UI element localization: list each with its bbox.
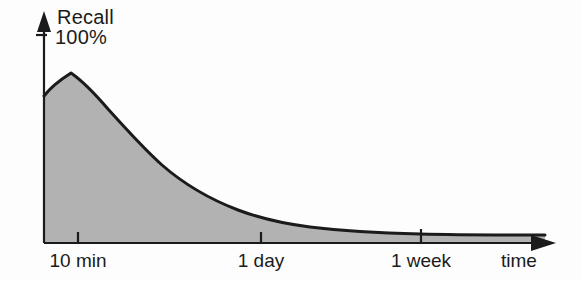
y-axis-tick-label-100: 100%: [55, 26, 107, 49]
y-axis-arrowhead: [37, 11, 51, 32]
x-axis-title: time: [501, 250, 537, 272]
x-axis-tick-label-1-week: 1 week: [391, 250, 451, 272]
x-axis-tick-label-10-min: 10 min: [49, 250, 106, 272]
recall-area-fill: [44, 73, 545, 243]
forgetting-curve-figure: Recall 100% 10 min 1 day 1 week time: [0, 0, 582, 281]
x-axis-tick-label-1-day: 1 day: [238, 250, 284, 272]
